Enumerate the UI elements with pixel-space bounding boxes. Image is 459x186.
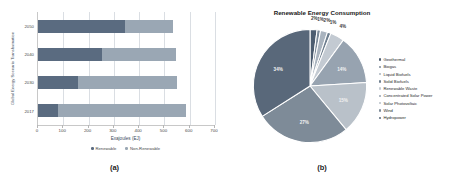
pie-legend-item-liquid-biofuels: Liquid Biofuels bbox=[379, 72, 459, 77]
pie-value-label-renewable-waste: 4% bbox=[339, 24, 346, 29]
pie-legend-item-biogas: Biogas bbox=[379, 64, 459, 69]
pie-legend-label: Wind bbox=[383, 108, 393, 113]
pie-legend-label: Solid Biofuels bbox=[383, 79, 408, 84]
bar-legend-label: Renewable bbox=[96, 146, 117, 151]
pie-value-label-wind: 27% bbox=[300, 119, 309, 124]
pie-legend-item-wind: Wind bbox=[379, 108, 459, 113]
bar-segment-non-renewable bbox=[102, 48, 175, 61]
pie-value-label-concentrated-solar-power: 14% bbox=[337, 66, 346, 71]
bar-chart-gridline bbox=[190, 12, 191, 125]
pie-legend-label: Geothermal bbox=[383, 57, 405, 62]
panel-b-caption: (b) bbox=[229, 163, 415, 172]
bar-segment-renewable bbox=[38, 76, 78, 89]
legend-swatch-icon bbox=[379, 58, 381, 60]
pie-legend-item-geothermal: Geothermal bbox=[379, 57, 459, 62]
legend-swatch-icon bbox=[379, 80, 381, 82]
pie-legend-label: Hydropower bbox=[383, 115, 406, 120]
legend-swatch-icon bbox=[379, 66, 381, 68]
bar-segment-non-renewable bbox=[78, 76, 177, 89]
panel-a-caption: (a) bbox=[0, 163, 229, 172]
bar-chart-gridline bbox=[215, 12, 216, 125]
legend-swatch-icon bbox=[379, 73, 381, 75]
bar-segment-non-renewable bbox=[125, 20, 173, 33]
bar-chart-bar bbox=[38, 20, 173, 33]
bar-chart-x-axis-title: Exajoules (EJ) bbox=[37, 136, 214, 141]
bar-chart-x-tick-600: 600 bbox=[185, 128, 192, 133]
bar-chart-x-tick-500: 500 bbox=[160, 128, 167, 133]
pie-legend-item-concentrated-solar-power: Concentrated Solar Power bbox=[379, 93, 459, 98]
pie-legend-label: Solar Photovoltaic bbox=[383, 101, 417, 106]
figure-container: Global Energy Scenario Transformation 20… bbox=[0, 0, 459, 186]
pie-legend-item-hydropower: Hydropower bbox=[379, 115, 459, 120]
legend-swatch-icon bbox=[379, 87, 381, 89]
bar-chart-x-axis-line bbox=[37, 125, 214, 126]
pie-legend-label: Biogas bbox=[383, 64, 396, 69]
bar-chart-x-tick-400: 400 bbox=[134, 128, 141, 133]
legend-swatch-icon bbox=[125, 147, 128, 150]
legend-swatch-icon bbox=[379, 109, 381, 111]
legend-swatch-icon bbox=[379, 102, 381, 104]
bar-chart-y-tick-labels: 2017203020402050 bbox=[18, 14, 35, 124]
bar-segment-renewable bbox=[38, 48, 102, 61]
bar-chart-bar bbox=[38, 104, 186, 117]
bar-chart-x-tick-0: 0 bbox=[36, 128, 38, 133]
pie-chart-plot-area: 2%1%2%1%4%14%15%27%34% bbox=[251, 27, 369, 145]
pie-legend-label: Concentrated Solar Power bbox=[383, 93, 432, 98]
bar-chart-legend: RenewableNon-Renewable bbox=[37, 146, 214, 151]
bar-chart-plot-area bbox=[37, 12, 214, 125]
pie-value-label-solar-photovoltaic: 15% bbox=[339, 98, 348, 103]
bar-legend-item-non-renewable: Non-Renewable bbox=[125, 146, 160, 151]
bar-chart-x-tick-100: 100 bbox=[59, 128, 66, 133]
bar-chart-y-tick-2030: 2030 bbox=[17, 80, 34, 85]
pie-chart-legend: GeothermalBiogasLiquid BiofuelsSolid Bio… bbox=[379, 57, 459, 123]
panel-a-bar-chart: Global Energy Scenario Transformation 20… bbox=[0, 0, 229, 186]
bar-chart-y-tick-2050: 2050 bbox=[17, 24, 34, 29]
legend-swatch-icon bbox=[379, 117, 381, 119]
bar-segment-non-renewable bbox=[58, 104, 186, 117]
pie-legend-item-renewable-waste: Renewable Waste bbox=[379, 86, 459, 91]
bar-legend-item-renewable: Renewable bbox=[91, 146, 117, 151]
pie-legend-label: Renewable Waste bbox=[383, 86, 417, 91]
pie-value-label-solid-biofuels: 1% bbox=[330, 20, 337, 25]
bar-chart-y-tick-2040: 2040 bbox=[17, 52, 34, 57]
legend-swatch-icon bbox=[379, 95, 381, 97]
bar-chart-bar bbox=[38, 76, 177, 89]
bar-segment-renewable bbox=[38, 104, 58, 117]
bar-chart-y-tick-2017: 2017 bbox=[17, 109, 34, 114]
panel-b-pie-chart: Renewable Energy Consumption 2%1%2%1%4%1… bbox=[229, 0, 459, 186]
pie-legend-label: Liquid Biofuels bbox=[383, 72, 410, 77]
bar-chart-x-tick-300: 300 bbox=[109, 128, 116, 133]
pie-chart-title: Renewable Energy Consumption bbox=[229, 9, 415, 16]
bar-chart-x-tick-200: 200 bbox=[84, 128, 91, 133]
pie-chart-svg bbox=[251, 27, 369, 145]
legend-swatch-icon bbox=[91, 147, 94, 150]
bar-legend-label: Non-Renewable bbox=[130, 146, 160, 151]
pie-legend-item-solar-photovoltaic: Solar Photovoltaic bbox=[379, 101, 459, 106]
bar-chart-bar bbox=[38, 48, 176, 61]
bar-chart-x-tick-700: 700 bbox=[210, 128, 217, 133]
bar-segment-renewable bbox=[38, 20, 125, 33]
pie-legend-item-solid-biofuels: Solid Biofuels bbox=[379, 79, 459, 84]
pie-value-label-hydropower: 34% bbox=[274, 66, 283, 71]
